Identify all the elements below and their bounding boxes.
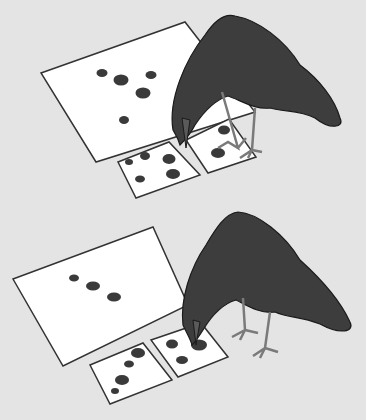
crow-illustration xyxy=(0,0,366,420)
top-panel xyxy=(41,15,341,198)
bottom-panel xyxy=(13,212,351,404)
